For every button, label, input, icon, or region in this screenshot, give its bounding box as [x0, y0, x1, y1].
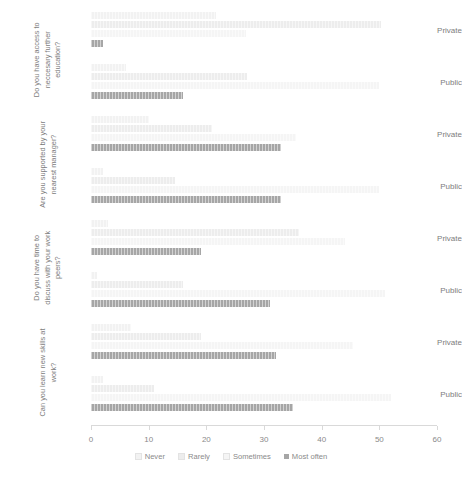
question-label-group-2: Do you have time to discuss with your wo… [0, 216, 96, 320]
question-label-text: Are you supported by your nearest manage… [38, 120, 59, 208]
bar-sometimes [91, 342, 353, 349]
question-label-text: Can you learn new skills at work? [38, 328, 59, 416]
legend-item-mostoften[interactable]: Most often [284, 452, 327, 461]
bar-rarely [91, 385, 154, 392]
x-tick-label: 40 [317, 435, 326, 444]
x-tick-label: 10 [144, 435, 153, 444]
plot-area: 0102030405060 [91, 8, 437, 426]
bar-mostoften [91, 144, 281, 151]
bar-mostoften [91, 40, 103, 47]
bar-never [91, 168, 103, 175]
question-label-group-0: Do you have access to neccesary further … [0, 8, 96, 112]
bar-sometimes [91, 82, 379, 89]
bar-mostoften [91, 352, 276, 359]
x-tick [149, 426, 150, 430]
x-tick-label: 50 [375, 435, 384, 444]
legend-swatch-icon [223, 453, 230, 460]
x-tick-label: 0 [89, 435, 93, 444]
legend-swatch-icon [178, 453, 185, 460]
bar-mostoften [91, 300, 270, 307]
legend-label: Sometimes [233, 452, 271, 461]
x-tick [91, 426, 92, 430]
bar-mostoften [91, 92, 183, 99]
x-tick-label: 60 [433, 435, 442, 444]
question-label-group-1: Are you supported by your nearest manage… [0, 112, 96, 216]
bar-mostoften [91, 196, 281, 203]
legend-label: Never [145, 452, 165, 461]
bar-rarely [91, 21, 381, 28]
x-tick [206, 426, 207, 430]
x-tick [379, 426, 380, 430]
bar-never [91, 324, 131, 331]
chart-legend: NeverRarelySometimesMost often [0, 452, 462, 461]
x-tick [437, 426, 438, 430]
legend-swatch-icon [135, 453, 142, 460]
bar-sometimes [91, 30, 246, 37]
bar-never [91, 220, 108, 227]
legend-item-never[interactable]: Never [135, 452, 165, 461]
question-label-text: Do you have time to discuss with your wo… [32, 224, 64, 312]
legend-item-sometimes[interactable]: Sometimes [223, 452, 271, 461]
question-label-text: Do you have access to neccesary further … [32, 16, 64, 104]
bar-rarely [91, 177, 175, 184]
legend-label: Most often [292, 452, 327, 461]
bar-rarely [91, 125, 212, 132]
x-tick [322, 426, 323, 430]
bar-never [91, 12, 216, 19]
bar-never [91, 64, 126, 71]
bar-rarely [91, 333, 201, 340]
bar-never [91, 376, 103, 383]
bar-sometimes [91, 134, 296, 141]
question-label-group-3: Can you learn new skills at work? [0, 320, 96, 424]
x-tick-label: 20 [202, 435, 211, 444]
legend-swatch-icon [284, 454, 289, 459]
bar-never [91, 272, 97, 279]
bar-sometimes [91, 290, 385, 297]
bar-rarely [91, 281, 183, 288]
bar-sometimes [91, 186, 379, 193]
x-tick [264, 426, 265, 430]
bar-sometimes [91, 238, 345, 245]
bar-rarely [91, 229, 299, 236]
x-tick-label: 30 [260, 435, 269, 444]
bar-sometimes [91, 394, 391, 401]
bar-rarely [91, 73, 247, 80]
bar-chart: Do you have access to neccesary further … [0, 0, 462, 484]
bar-never [91, 116, 149, 123]
bar-mostoften [91, 248, 201, 255]
legend-item-rarely[interactable]: Rarely [178, 452, 210, 461]
legend-label: Rarely [188, 452, 210, 461]
bar-mostoften [91, 404, 293, 411]
